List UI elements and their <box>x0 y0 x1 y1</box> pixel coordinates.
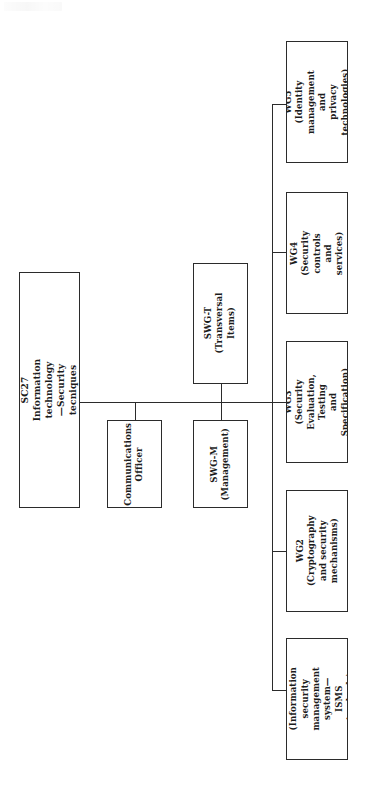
connector-to-wg3 <box>272 402 286 403</box>
node-communications-officer-label: Communications Officer <box>123 423 146 506</box>
connector-to-wg2 <box>272 551 286 552</box>
node-wg2[interactable]: WG2 (Cryptography and security mechanism… <box>286 490 348 612</box>
connector-root-bus <box>80 402 260 403</box>
node-wg1-label: WG1 (Information security management sys… <box>286 667 348 731</box>
scan-artifact <box>4 2 62 11</box>
connector-to-wg4 <box>272 252 286 253</box>
node-wg5[interactable]: WG5 (Identity management and privacy tec… <box>286 41 348 163</box>
node-swg-m-label: SWG-M (Management) <box>209 428 232 500</box>
node-communications-officer[interactable]: Communications Officer <box>107 420 162 508</box>
connector-to-swg-m <box>221 402 222 420</box>
node-sc27[interactable]: SC27 Information technology—Security tec… <box>19 272 80 508</box>
node-swg-t[interactable]: SWG-T (Transversal Items) <box>193 263 248 384</box>
node-wg3-label: WG3 (Security Evaluation, Testing and Sp… <box>286 368 348 437</box>
org-chart-canvas: SC27 Information technology—Security tec… <box>0 0 366 791</box>
connector-to-swg-t <box>221 384 222 403</box>
connector-to-wg1 <box>272 690 286 691</box>
node-sc27-label: SC27 Information technology—Security tec… <box>20 359 80 422</box>
connector-to-communications-officer <box>135 402 136 420</box>
node-swg-t-label: SWG-T (Transversal Items) <box>203 293 237 354</box>
node-wg4-label: WG4 (Security controls and services) <box>289 223 346 283</box>
node-wg4[interactable]: WG4 (Security controls and services) <box>286 192 348 314</box>
node-wg3[interactable]: WG3 (Security Evaluation, Testing and Sp… <box>286 341 348 463</box>
connector-to-wg5 <box>272 104 286 105</box>
node-wg2-label: WG2 (Cryptography and security mechanism… <box>294 516 339 587</box>
connector-wg-vertical-bus <box>272 104 273 690</box>
node-wg1[interactable]: WG1 (Information security management sys… <box>286 638 348 760</box>
node-swg-m[interactable]: SWG-M (Management) <box>193 420 248 508</box>
node-wg5-label: WG5 (Identity management and privacy tec… <box>286 69 348 136</box>
